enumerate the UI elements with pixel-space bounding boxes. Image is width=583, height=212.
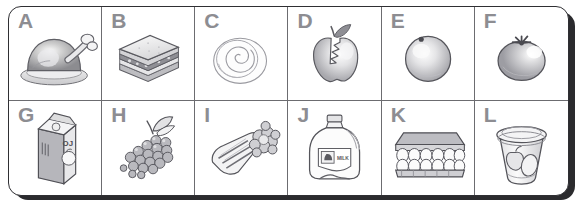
milk-jug-icon: MILK [288, 101, 380, 195]
jug-label-text: MILK [337, 156, 349, 161]
grid-cell-j[interactable]: J [288, 101, 381, 195]
grid-cell-h[interactable]: H [102, 101, 195, 195]
swirl-pastry-bun-icon [195, 7, 287, 100]
grid-cell-i[interactable]: I [195, 101, 288, 195]
grid-cell-g[interactable]: G OJ [9, 101, 102, 195]
orange-fruit-icon [382, 7, 474, 100]
food-grid: A [9, 7, 568, 195]
grid-cell-a[interactable]: A [9, 7, 102, 101]
worksheet-image: A [0, 0, 583, 212]
roast-turkey-on-platter-icon [9, 7, 101, 100]
grid-cell-l[interactable]: L [475, 101, 568, 195]
yogurt-cup-icon [475, 101, 568, 195]
tomato-icon [475, 7, 568, 100]
food-grid-card: A [8, 6, 569, 196]
juice-carton-icon: OJ [9, 101, 101, 195]
grid-cell-d[interactable]: D [288, 7, 381, 101]
grid-cell-f[interactable]: F [475, 7, 568, 101]
grid-cell-c[interactable]: C [195, 7, 288, 101]
celery-icon [195, 101, 287, 195]
carton-label-text: OJ [63, 139, 73, 148]
grid-cell-e[interactable]: E [382, 7, 475, 101]
grid-cell-k[interactable]: K [382, 101, 475, 195]
grid-cell-b[interactable]: B [102, 7, 195, 101]
grapes-icon [102, 101, 194, 195]
sandwich-icon [102, 7, 194, 100]
bitten-apple-icon [288, 7, 380, 100]
egg-carton-icon [382, 101, 474, 195]
